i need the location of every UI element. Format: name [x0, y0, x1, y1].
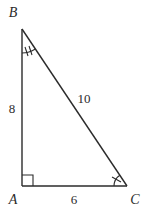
triangle-drawing	[0, 0, 147, 213]
side-label-ac: 6	[71, 193, 78, 206]
right-angle-marker	[22, 175, 33, 186]
right-triangle-diagram: B A C 8 10 6	[0, 0, 147, 213]
side-label-bc: 10	[78, 92, 91, 105]
angle-b-tick-1	[25, 47, 28, 56]
vertex-label-c: C	[130, 193, 139, 207]
side-bc	[22, 29, 127, 186]
vertex-label-b: B	[9, 6, 18, 20]
vertex-label-a: A	[9, 193, 18, 207]
side-label-ab: 8	[9, 102, 16, 115]
angle-b-arc	[22, 49, 35, 53]
